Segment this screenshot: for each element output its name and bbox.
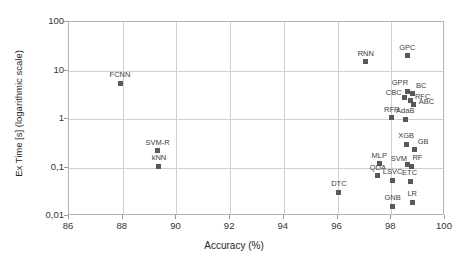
data-point-label: LSVC [383,167,403,176]
data-point [390,204,395,209]
y-tick-label: 1 [0,112,70,123]
y-tick-label: 0,1 [0,161,70,172]
data-point-label: GPR [392,78,408,87]
data-point-label: SVM-R [146,138,170,147]
x-tick-mark [229,215,230,219]
x-tick-label: 86 [48,220,88,231]
x-tick-label: 92 [209,220,249,231]
data-point-label: DTC [331,179,346,188]
data-point [404,142,409,147]
gridline-horizontal [69,119,443,120]
data-point-label: XGB [398,131,414,140]
data-point [412,147,417,152]
data-point [363,59,368,64]
data-point-label: FCNN [110,70,131,79]
data-point [402,95,407,100]
gridline-vertical [284,22,285,214]
y-tick-label: 10 [0,64,70,75]
y-tick-label: 100 [0,15,70,26]
data-point-label: CBC [386,88,402,97]
data-point-label: SVM [391,154,407,163]
x-tick-mark [337,215,338,219]
data-point-label: LR [407,189,417,198]
x-tick-mark [390,215,391,219]
data-point [375,173,380,178]
data-point [390,178,395,183]
scatter-chart-figure: FCNNSVM-RkNNRNNGPCGPRBCCBCRFCABCRFRAdaBX… [0,0,468,267]
data-point-label: GB [418,137,429,146]
x-tick-label: 88 [102,220,142,231]
data-point [408,179,413,184]
plot-area: FCNNSVM-RkNNRNNGPCGPRBCCBCRFCABCRFRAdaBX… [68,21,444,215]
y-tick-label: 0,01 [0,209,70,220]
x-axis-title: Accuracy (%) [0,240,468,251]
x-tick-label: 100 [424,220,464,231]
data-point [118,81,123,86]
data-point [336,190,341,195]
data-point-label: ABC [419,97,434,106]
data-point-label: MLP [371,151,386,160]
gridline-vertical [176,22,177,214]
data-point [405,53,410,58]
data-point [410,200,415,205]
gridline-vertical [123,22,124,214]
x-tick-mark [444,215,445,219]
gridline-vertical [230,22,231,214]
x-tick-label: 90 [155,220,195,231]
data-point-label: GNB [384,193,400,202]
data-point [156,164,161,169]
data-point [389,115,394,120]
data-point-label: AdaB [396,106,414,115]
x-tick-mark [283,215,284,219]
data-point-label: ETC [402,168,417,177]
data-point-label: RNN [358,49,374,58]
data-point-label: BC [416,81,426,90]
x-tick-label: 94 [263,220,303,231]
data-point [403,117,408,122]
x-tick-mark [175,215,176,219]
data-point-label: kNN [152,153,167,162]
x-tick-mark [122,215,123,219]
data-point-label: GPC [399,43,415,52]
data-point-label: RF [412,153,422,162]
x-tick-label: 96 [317,220,357,231]
x-tick-label: 98 [370,220,410,231]
